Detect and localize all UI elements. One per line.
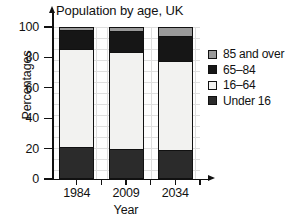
x-axis-label: Year [52, 203, 200, 217]
x-axis-tick [175, 179, 176, 185]
bar-segment [110, 31, 143, 52]
stacked-bar-chart: Population by age, UK Percentages 100806… [0, 0, 290, 224]
bar-segment [159, 61, 192, 150]
bar-1984[interactable] [59, 27, 94, 179]
chart-legend: 85 and over65–8416–64Under 16 [208, 47, 284, 109]
bar-segment [159, 36, 192, 62]
bar-segment [110, 149, 143, 178]
y-axis-tick [44, 178, 52, 179]
legend-item-label: 65–84 [223, 63, 255, 77]
bar-segment [60, 30, 93, 50]
y-axis-tick-label: 20 [25, 142, 39, 156]
y-axis-tick [44, 148, 52, 149]
y-axis-tick-label: 60 [25, 81, 39, 95]
y-axis-arrow-icon [49, 6, 55, 13]
y-axis-tick [44, 118, 52, 119]
x-axis-tick-label: 1984 [63, 186, 90, 200]
bar-segment [159, 150, 192, 179]
legend-swatch-icon [208, 96, 217, 105]
x-axis-tick-label: 2009 [112, 186, 139, 200]
bar-segment [159, 28, 192, 36]
legend-item[interactable]: Under 16 [208, 94, 284, 108]
legend-item-label: Under 16 [223, 94, 271, 108]
bar-segment [60, 49, 93, 147]
y-axis-tick-label: 100 [19, 20, 39, 34]
y-axis-tick-label: 0 [32, 172, 39, 186]
y-axis-tick [44, 87, 52, 88]
x-axis-tick [101, 179, 102, 185]
x-axis-tick [125, 179, 126, 185]
legend-item[interactable]: 16–64 [208, 78, 284, 92]
legend-swatch-icon [208, 50, 217, 59]
legend-item[interactable]: 85 and over [208, 47, 284, 61]
legend-swatch-icon [208, 65, 217, 74]
y-axis-tick [44, 26, 52, 27]
bar-2034[interactable] [158, 27, 193, 179]
y-axis-tick-label: 80 [25, 50, 39, 64]
legend-item[interactable]: 65–84 [208, 63, 284, 77]
legend-item-label: 16–64 [223, 78, 255, 92]
x-axis-tick [150, 179, 151, 185]
bar-segment [60, 147, 93, 179]
y-axis-tick [44, 57, 52, 58]
x-axis-tick-label: 2034 [162, 186, 189, 200]
plot-area [52, 27, 200, 179]
bar-2009[interactable] [109, 27, 144, 179]
y-axis-tick-label: 40 [25, 111, 39, 125]
legend-swatch-icon [208, 81, 217, 90]
x-axis-arrow-icon [208, 175, 215, 181]
x-axis-tick [76, 179, 77, 185]
x-axis-tick [199, 179, 200, 185]
legend-item-label: 85 and over [223, 47, 284, 61]
y-axis-line [52, 12, 54, 180]
chart-title: Population by age, UK [56, 3, 183, 18]
bar-segment [110, 52, 143, 150]
